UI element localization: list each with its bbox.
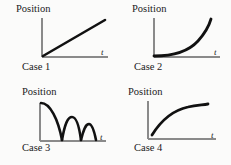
case-3-arc-3 (81, 124, 96, 140)
x-axis-label: t (214, 48, 217, 57)
case-caption: Case 2 (134, 62, 162, 73)
y-axis-label: Position (128, 87, 162, 98)
y-axis-label: Position (132, 4, 166, 15)
x-axis-label: t (101, 48, 104, 57)
case-caption: Case 1 (22, 62, 50, 73)
panel-case-1: Position t Case 1 (0, 0, 115, 82)
case-3-arc-2 (62, 117, 81, 140)
case-3-arc-1 (41, 103, 62, 140)
case-3-plot (0, 83, 115, 165)
case-caption: Case 4 (134, 143, 162, 154)
x-axis-label: t (211, 131, 214, 140)
y-axis-label: Position (22, 87, 56, 98)
motion-graph-figure: Position t Case 1 Position t Case 2 Posi… (0, 0, 231, 165)
panel-case-3: Position t Case 3 (0, 83, 115, 165)
y-axis-label: Position (16, 4, 50, 15)
case-2-curve (154, 19, 211, 56)
case-caption: Case 3 (22, 143, 50, 154)
panel-case-2: Position t Case 2 (116, 0, 231, 82)
x-axis-label: t (100, 133, 103, 142)
case-1-curve (43, 20, 105, 56)
case-4-curve (152, 104, 208, 135)
panel-case-4: Position t Case 4 (116, 83, 231, 165)
